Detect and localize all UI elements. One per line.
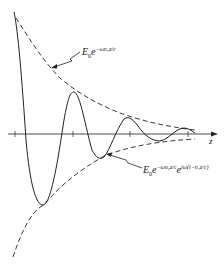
diagram-canvas [0, 0, 224, 265]
damped-wave-diagram: E0e−ωn₂z/c E0e−ωn₂z/ceiω(t−n₁z/c) z [0, 0, 224, 265]
upper-envelope-label: E0e−ωn₂z/c [82, 46, 116, 59]
upper-label-leader [51, 52, 80, 69]
upper-envelope-curve [16, 18, 195, 130]
z-axis-label: z [209, 136, 213, 146]
z-axis [8, 131, 218, 137]
wave-label: E0e−ωn₂z/ceiω(t−n₁z/c) [143, 164, 208, 177]
wave-label-leader [106, 153, 142, 169]
